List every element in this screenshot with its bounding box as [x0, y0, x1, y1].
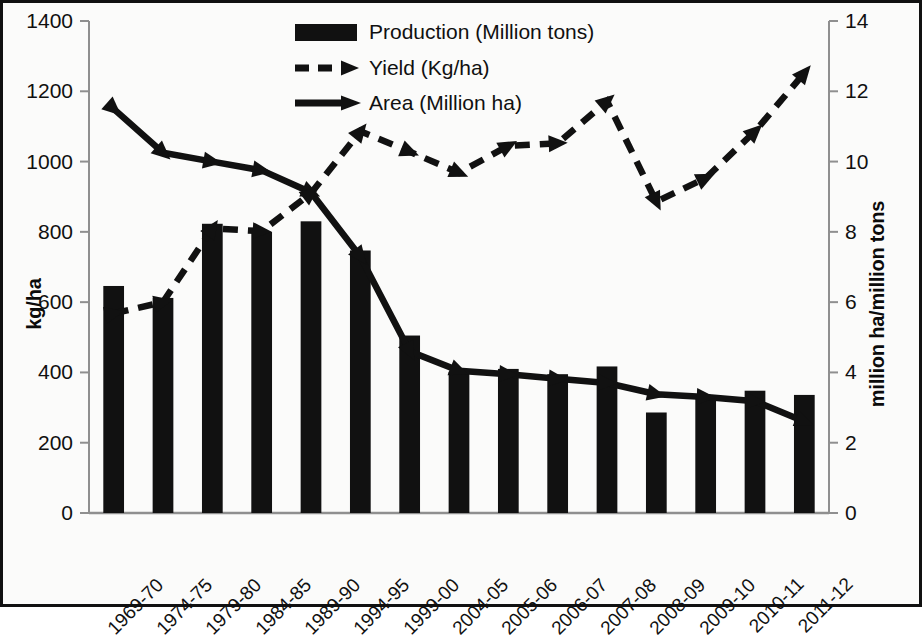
- y-tick-right-4: 4: [845, 360, 857, 384]
- bar-1994-95: [350, 250, 371, 513]
- y-tick-right-14: 14: [845, 9, 868, 33]
- y-tick-left-800: 800: [3, 220, 73, 244]
- dashed-arrow-icon: [341, 61, 359, 76]
- x-tick-2011-12: 2011-12: [794, 573, 858, 637]
- marker-2004-05: [447, 161, 471, 184]
- marker-2008-09: [645, 190, 669, 215]
- solid-arrow-icon: [341, 96, 361, 111]
- legend-item-area: Area (Million ha): [295, 91, 522, 114]
- y-tick-left-600: 600: [3, 290, 73, 314]
- bar-2009-10: [695, 396, 716, 513]
- legend-item-production: Production (Million tons): [295, 20, 594, 43]
- marker-1999-00: [398, 140, 422, 163]
- bar-1989-90: [301, 221, 322, 513]
- bar-1979-80: [202, 224, 223, 513]
- marker-1994-95: [348, 118, 373, 143]
- bar-2004-05: [449, 372, 470, 513]
- y-tick-left-400: 400: [3, 360, 73, 384]
- bar-swatch-icon: [295, 24, 357, 41]
- bar-2011-12: [794, 395, 815, 513]
- legend-label-yield: Yield (Kg/ha): [369, 56, 490, 79]
- chart-legend: Production (Million tons) Yield (Kg/ha) …: [289, 11, 629, 121]
- y-tick-right-12: 12: [845, 79, 868, 103]
- y-tick-right-8: 8: [845, 220, 857, 244]
- bar-2005-06: [498, 369, 519, 513]
- legend-label-production: Production (Million tons): [369, 20, 594, 43]
- bar-2008-09: [646, 412, 667, 513]
- y-tick-right-10: 10: [845, 150, 868, 174]
- y-tick-left-1200: 1200: [3, 79, 73, 103]
- y-tick-left-200: 200: [3, 431, 73, 455]
- bar-1974-75: [153, 298, 174, 513]
- y-tick-left-1400: 1400: [3, 9, 73, 33]
- bar-2010-11: [745, 391, 766, 513]
- bar-1984-85: [251, 232, 272, 513]
- y-axis-right-title: million ha/million tons: [866, 200, 889, 407]
- y-tick-right-2: 2: [845, 431, 857, 455]
- bar-2006-07: [547, 374, 568, 513]
- y-tick-right-0: 0: [845, 501, 857, 525]
- bar-1999-00: [399, 336, 420, 513]
- y-tick-left-1000: 1000: [3, 150, 73, 174]
- legend-item-yield: Yield (Kg/ha): [295, 56, 490, 79]
- y-tick-right-6: 6: [845, 290, 857, 314]
- legend-label-area: Area (Million ha): [369, 91, 522, 114]
- y-tick-left-0: 0: [3, 501, 73, 525]
